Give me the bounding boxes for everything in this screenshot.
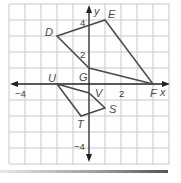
vertex-label-E: E [108,8,116,20]
vertex-label-G: G [79,71,88,83]
vertex-label-D: D [45,26,53,38]
bottom-divider-bar [0,170,168,173]
coordinate-plane-figure: y x −4 2 4 2 −4 D E F G U V S T [0,0,181,183]
y-axis-down-arrow-icon [86,154,92,162]
vertex-label-F: F [150,87,158,99]
tick-label-y-neg4: −4 [74,141,85,152]
vertex-label-U: U [48,72,56,84]
y-axis-up-arrow-icon [86,5,92,13]
vertex-label-S: S [109,103,117,115]
tick-label-x-neg4: −4 [15,88,26,99]
tick-label-y-2: 2 [80,49,85,60]
tick-label-y-4: 4 [80,17,85,28]
y-axis-label: y [93,5,101,17]
vertex-label-T: T [77,118,85,130]
axes [10,5,170,162]
tick-label-x-2: 2 [119,88,124,99]
x-axis-label: x [159,86,166,98]
x-axis-left-arrow-icon [10,81,18,87]
vertex-label-V: V [95,87,104,99]
